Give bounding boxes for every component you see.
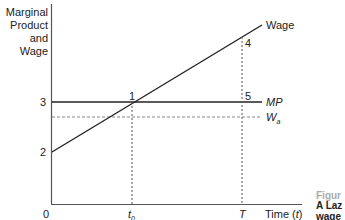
point-1-label: 1 (129, 90, 135, 102)
chart-canvas (0, 0, 345, 220)
figure-caption-title: A Laz wage (316, 200, 342, 220)
caption-line: wage (316, 211, 342, 220)
y-label-line: Product (0, 19, 48, 32)
y-tick-3: 3 (40, 96, 46, 108)
point-5-label: 5 (245, 90, 251, 102)
mp-legend: MP (266, 96, 283, 108)
T-label: T (239, 208, 246, 220)
t0-label: t0 (128, 208, 135, 220)
y-tick-2: 2 (40, 146, 46, 158)
origin-label: 0 (43, 208, 49, 220)
y-axis-label: Marginal Product and Wage (0, 6, 48, 58)
point-4-label: 4 (245, 37, 251, 49)
x-axis-label: Time (t) (265, 208, 303, 220)
wage-line (52, 25, 262, 152)
caption-line: A Laz (316, 200, 342, 211)
y-label-line: and Wage (0, 32, 48, 58)
y-label-line: Marginal (0, 6, 48, 19)
wage-legend: Wage (266, 19, 294, 31)
wa-legend: Wa (266, 111, 280, 128)
